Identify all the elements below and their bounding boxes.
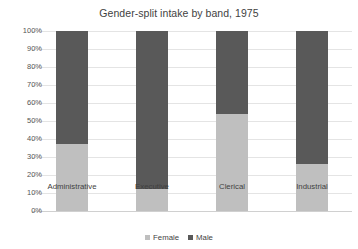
y-axis-tick-label: 90% [2, 45, 42, 53]
legend-swatch-icon [145, 235, 150, 240]
y-axis-tick-label: 40% [2, 135, 42, 143]
bar-segment-female[interactable] [136, 189, 168, 211]
y-axis-tick-label: 100% [2, 27, 42, 35]
x-axis-tick-label: Administrative [32, 183, 112, 191]
bar-segment-male[interactable] [216, 31, 248, 114]
y-axis-tick-label: 30% [2, 153, 42, 161]
y-axis-tick-label: 60% [2, 99, 42, 107]
y-axis-tick-label: 20% [2, 171, 42, 179]
x-axis-tick-label: Executive [112, 183, 192, 191]
y-axis-tick-label: 80% [2, 63, 42, 71]
bar-segment-male[interactable] [136, 31, 168, 189]
chart-title: Gender-split intake by band, 1975 [0, 7, 358, 19]
stacked-bar-chart: Gender-split intake by band, 1975 100%90… [0, 0, 358, 249]
legend-swatch-icon [188, 235, 193, 240]
legend-label: Male [196, 233, 213, 242]
bar-segment-male[interactable] [56, 31, 88, 144]
chart-legend: FemaleMale [0, 233, 358, 242]
bar-segment-female[interactable] [56, 144, 88, 211]
x-axis-tick-label: Industrial [272, 183, 352, 191]
bar-segment-female[interactable] [216, 114, 248, 211]
bar-segment-male[interactable] [296, 31, 328, 164]
y-axis-tick-label: 50% [2, 117, 42, 125]
x-axis-tick-label: Clerical [192, 183, 272, 191]
y-axis-tick-label: 0% [2, 207, 42, 215]
legend-entry[interactable]: Female [145, 233, 179, 242]
gridline [32, 211, 352, 212]
legend-entry[interactable]: Male [188, 233, 213, 242]
y-axis-tick-label: 70% [2, 81, 42, 89]
legend-label: Female [153, 233, 179, 242]
